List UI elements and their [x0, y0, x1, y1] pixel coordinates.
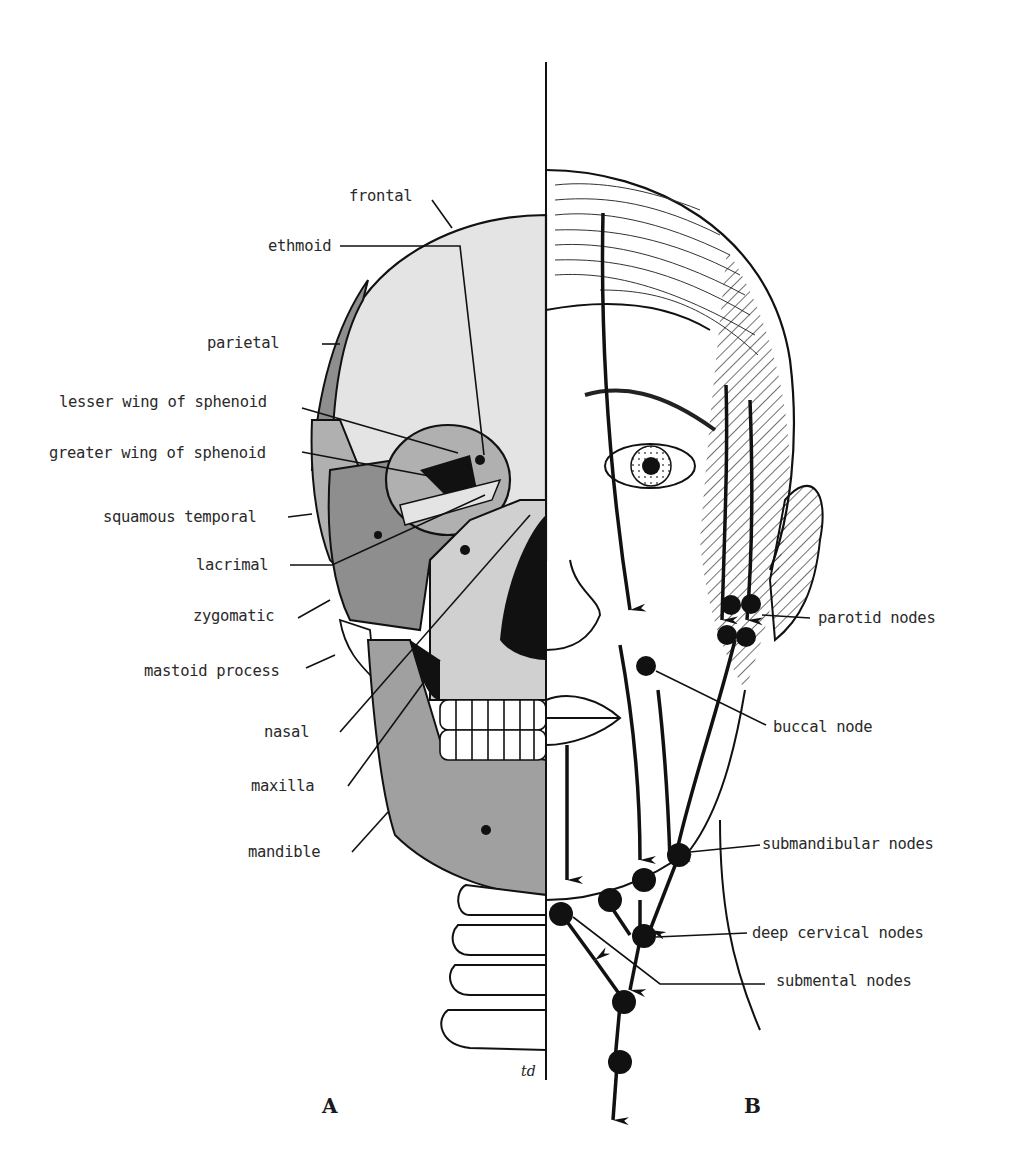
panel-label-a: A — [322, 1094, 338, 1118]
parotid-node — [736, 627, 756, 647]
submandibular-node — [632, 868, 656, 892]
parotid-node — [741, 594, 761, 614]
label-nasal: nasal — [264, 723, 309, 741]
label-deep-cervical-nodes: deep cervical nodes — [752, 924, 924, 942]
cervical-vertebrae — [441, 885, 546, 1050]
label-buccal-node: buccal node — [773, 718, 872, 736]
skull-drawing — [312, 215, 546, 1050]
label-greater-wing-of-sphenoid: greater wing of sphenoid — [49, 444, 266, 462]
deep-cervical-node — [632, 924, 656, 948]
parotid-node — [717, 625, 737, 645]
anatomy-figure — [0, 0, 1009, 1168]
deep-cervical-node — [608, 1050, 632, 1074]
label-lacrimal: lacrimal — [196, 556, 268, 574]
label-squamous-temporal: squamous temporal — [103, 508, 257, 526]
submental-node — [549, 902, 573, 926]
label-lesser-wing-of-sphenoid: lesser wing of sphenoid — [59, 393, 267, 411]
deep-cervical-node — [612, 990, 636, 1014]
label-zygomatic: zygomatic — [193, 607, 274, 625]
label-frontal: frontal — [349, 187, 412, 205]
panel-label-b: B — [744, 1094, 761, 1118]
label-parietal: parietal — [207, 334, 279, 352]
label-mandible: mandible — [248, 843, 320, 861]
parotid-node — [721, 595, 741, 615]
submandibular-node — [598, 888, 622, 912]
lips — [546, 696, 620, 745]
submandibular-node — [667, 843, 691, 867]
label-submandibular-nodes: submandibular nodes — [762, 835, 934, 853]
teeth — [440, 700, 546, 760]
buccal-node — [636, 656, 656, 676]
label-mastoid-process: mastoid process — [144, 662, 279, 680]
label-submental-nodes: submental nodes — [776, 972, 911, 990]
label-ethmoid: ethmoid — [268, 237, 331, 255]
label-parotid-nodes: parotid nodes — [818, 609, 935, 627]
nose — [546, 560, 600, 650]
artist-signature: td — [521, 1063, 536, 1079]
label-maxilla: maxilla — [251, 777, 314, 795]
